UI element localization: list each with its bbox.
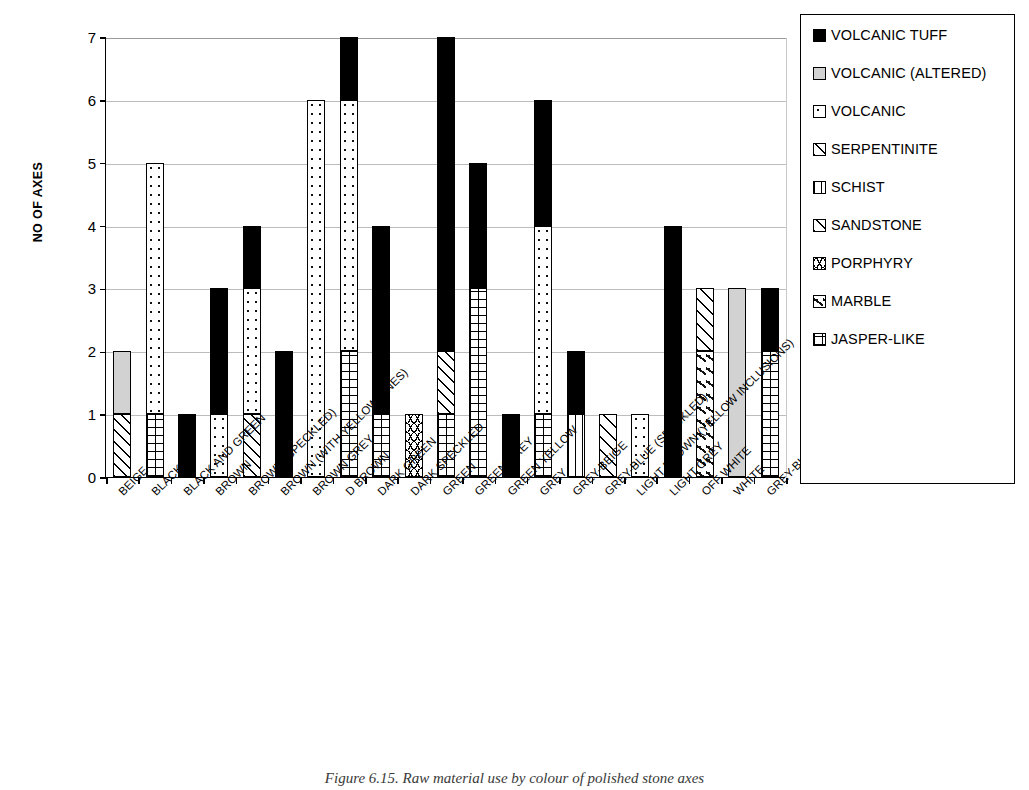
bar-segment-volc-alt [113, 351, 131, 414]
y-axis-tick-mark [100, 163, 106, 165]
legend-swatch-icon [813, 105, 826, 118]
bar-green[interactable] [437, 37, 455, 477]
bar-segment-volc [146, 163, 164, 414]
bar-segment-serp [437, 351, 455, 414]
legend-swatch-icon [813, 295, 826, 308]
bar-segment-tuff [243, 226, 261, 289]
legend-label: MARBLE [831, 293, 891, 309]
legend-swatch-icon [813, 219, 826, 232]
y-axis-tick-label: 0 [50, 470, 96, 485]
legend-label: SCHIST [831, 179, 885, 195]
bar-segment-jasper [469, 288, 487, 477]
y-axis-tick-label: 3 [50, 281, 96, 296]
x-axis-tick-mark [106, 478, 108, 484]
bar-segment-serp [113, 414, 131, 477]
bar-segment-tuff [469, 163, 487, 289]
legend-label: VOLCANIC [831, 103, 906, 119]
legend-label: VOLCANIC (ALTERED) [831, 65, 986, 81]
y-axis-tick-mark [100, 289, 106, 291]
bar-grey[interactable] [534, 100, 552, 477]
legend-label: SERPENTINITE [831, 141, 938, 157]
bar-segment-volc [534, 226, 552, 415]
legend-swatch-icon [813, 67, 826, 80]
legend-item-serp[interactable]: SERPENTINITE [813, 141, 1006, 157]
bar-segment-jasper [146, 414, 164, 477]
y-axis-tick-mark [100, 226, 106, 228]
y-axis-tick-mark [100, 37, 106, 39]
bar-black[interactable] [146, 163, 164, 477]
legend-item-porph[interactable]: PORPHYRY [813, 255, 1006, 271]
legend-label: JASPER-LIKE [831, 331, 925, 347]
bar-beige[interactable] [113, 351, 131, 477]
y-axis-tick-label: 6 [50, 93, 96, 108]
y-axis-tick-mark [100, 100, 106, 102]
y-axis-title: NO OF AXES [31, 122, 45, 282]
legend-swatch-icon [813, 29, 826, 42]
y-axis-tick-label: 7 [50, 30, 96, 45]
y-axis-tick-mark [100, 414, 106, 416]
y-axis-tick-label: 2 [50, 344, 96, 359]
legend-item-jasper[interactable]: JASPER-LIKE [813, 331, 1006, 347]
bar-segment-tuff [761, 288, 779, 351]
legend-item-marble[interactable]: MARBLE [813, 293, 1006, 309]
legend-item-schist[interactable]: SCHIST [813, 179, 1006, 195]
legend-swatch-icon [813, 181, 826, 194]
bar-grey-blue[interactable] [761, 288, 779, 477]
legend-item-tuff[interactable]: VOLCANIC TUFF [813, 27, 1006, 43]
y-axis-tick-label: 1 [50, 407, 96, 422]
legend-item-sand[interactable]: SANDSTONE [813, 217, 1006, 233]
legend-swatch-icon [813, 333, 826, 346]
plot-right-edge [786, 38, 787, 478]
bar-segment-tuff [534, 100, 552, 226]
bar-grey-beige[interactable] [567, 351, 585, 477]
legend-item-volc[interactable]: VOLCANIC [813, 103, 1006, 119]
legend-label: SANDSTONE [831, 217, 922, 233]
figure-container: NO OF AXES 01234567 BEIGEBLACKBLACK AND … [0, 0, 1029, 790]
bar-segment-sand [696, 288, 714, 351]
y-axis-tick-label: 4 [50, 219, 96, 234]
legend-item-volc-alt[interactable]: VOLCANIC (ALTERED) [813, 65, 1006, 81]
bar-segment-tuff [567, 351, 585, 414]
y-axis-tick-label: 5 [50, 156, 96, 171]
legend-label: VOLCANIC TUFF [831, 27, 947, 43]
chart-legend: VOLCANIC TUFFVOLCANIC (ALTERED)VOLCANICS… [800, 14, 1015, 484]
bar-segment-tuff [210, 288, 228, 414]
legend-swatch-icon [813, 257, 826, 270]
legend-label: PORPHYRY [831, 255, 913, 271]
bar-segment-volc [243, 288, 261, 414]
legend-swatch-icon [813, 143, 826, 156]
x-axis-labels: BEIGEBLACKBLACK AND GREENBROWNBROWN (SPE… [0, 486, 800, 786]
figure-caption: Figure 6.15. Raw material use by colour … [0, 770, 1029, 790]
y-axis-tick-mark [100, 352, 106, 354]
bar-segment-tuff [437, 37, 455, 351]
bar-segment-tuff [340, 37, 358, 100]
bar-segment-volc [340, 100, 358, 351]
